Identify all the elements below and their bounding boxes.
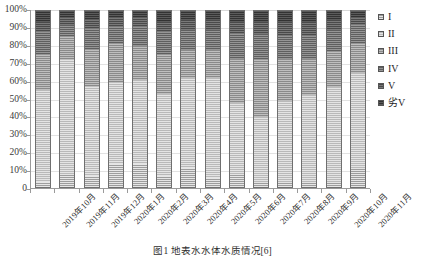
legend-item[interactable]: II xyxy=(378,29,425,39)
bar-column[interactable] xyxy=(104,10,128,188)
bar-column[interactable] xyxy=(201,10,225,188)
bar-segment-III[interactable] xyxy=(351,44,365,72)
bar-segment-IV[interactable] xyxy=(157,32,171,55)
bar-segment-劣V[interactable] xyxy=(85,11,99,20)
bar-segment-I[interactable] xyxy=(327,183,341,187)
bar-segment-V[interactable] xyxy=(327,20,341,31)
bar-segment-V[interactable] xyxy=(278,22,292,36)
bar-segment-IV[interactable] xyxy=(327,30,341,51)
bar-segment-III[interactable] xyxy=(157,55,171,94)
bar-segment-V[interactable] xyxy=(157,22,171,33)
bar-segment-III[interactable] xyxy=(181,50,195,78)
bar-segment-I[interactable] xyxy=(85,176,99,187)
bar-segment-II[interactable] xyxy=(60,60,74,174)
bar-segment-IV[interactable] xyxy=(206,30,220,49)
bar-segment-III[interactable] xyxy=(85,50,99,87)
bar-segment-II[interactable] xyxy=(133,80,147,164)
bar-column[interactable] xyxy=(128,10,152,188)
bar-segment-I[interactable] xyxy=(133,164,147,187)
bar-segment-II[interactable] xyxy=(181,78,195,168)
bar-segment-II[interactable] xyxy=(302,95,316,183)
bar-segment-劣V[interactable] xyxy=(254,11,268,22)
bar-segment-IV[interactable] xyxy=(133,27,147,46)
legend-item[interactable]: V xyxy=(378,81,425,91)
bar-segment-I[interactable] xyxy=(181,168,195,187)
bar-stack[interactable] xyxy=(205,10,221,188)
legend-item[interactable]: III xyxy=(378,46,425,56)
bar-segment-III[interactable] xyxy=(302,59,316,96)
bar-segment-V[interactable] xyxy=(302,22,316,36)
bar-segment-IV[interactable] xyxy=(302,36,316,59)
bar-segment-劣V[interactable] xyxy=(327,11,341,20)
bar-segment-IV[interactable] xyxy=(254,34,268,60)
bar-stack[interactable] xyxy=(180,10,196,188)
bar-segment-劣V[interactable] xyxy=(302,11,316,22)
bar-segment-IV[interactable] xyxy=(181,30,195,49)
bar-segment-IV[interactable] xyxy=(60,25,74,37)
bar-segment-劣V[interactable] xyxy=(36,11,50,22)
bar-column[interactable] xyxy=(297,10,321,188)
bar-segment-II[interactable] xyxy=(206,78,220,178)
bar-segment-V[interactable] xyxy=(36,22,50,33)
bar-segment-IV[interactable] xyxy=(85,29,99,50)
bar-segment-IV[interactable] xyxy=(351,25,365,44)
bar-segment-III[interactable] xyxy=(206,50,220,78)
bar-column[interactable] xyxy=(55,10,79,188)
bar-segment-III[interactable] xyxy=(254,60,268,116)
bar-segment-III[interactable] xyxy=(133,46,147,79)
bar-segment-劣V[interactable] xyxy=(278,11,292,22)
bar-segment-III[interactable] xyxy=(327,52,341,87)
legend-item[interactable]: I xyxy=(378,12,425,22)
bar-segment-IV[interactable] xyxy=(36,32,50,55)
bar-segment-III[interactable] xyxy=(109,44,123,83)
bar-segment-V[interactable] xyxy=(206,20,220,31)
bar-segment-V[interactable] xyxy=(181,20,195,31)
bar-segment-II[interactable] xyxy=(327,87,341,184)
bar-stack[interactable] xyxy=(108,10,124,188)
bar-segment-V[interactable] xyxy=(351,18,365,25)
bar-segment-IV[interactable] xyxy=(109,27,123,45)
bar-stack[interactable] xyxy=(132,10,148,188)
bar-segment-III[interactable] xyxy=(278,59,292,101)
bar-stack[interactable] xyxy=(350,10,366,188)
bar-segment-II[interactable] xyxy=(36,90,50,182)
bar-column[interactable] xyxy=(176,10,200,188)
bar-segment-II[interactable] xyxy=(85,87,99,177)
bar-segment-III[interactable] xyxy=(36,55,50,90)
bar-segment-II[interactable] xyxy=(157,94,171,177)
bar-segment-劣V[interactable] xyxy=(157,11,171,22)
bar-segment-V[interactable] xyxy=(254,22,268,34)
bar-segment-V[interactable] xyxy=(133,18,147,27)
bar-column[interactable] xyxy=(152,10,176,188)
bar-segment-I[interactable] xyxy=(109,164,123,187)
bar-segment-I[interactable] xyxy=(36,182,50,187)
bar-segment-劣V[interactable] xyxy=(351,11,365,18)
bar-column[interactable] xyxy=(225,10,249,188)
bar-stack[interactable] xyxy=(35,10,51,188)
bar-stack[interactable] xyxy=(229,10,245,188)
bar-column[interactable] xyxy=(31,10,55,188)
bar-segment-劣V[interactable] xyxy=(109,11,123,18)
bar-segment-劣V[interactable] xyxy=(206,11,220,20)
bar-segment-V[interactable] xyxy=(109,18,123,27)
bar-stack[interactable] xyxy=(253,10,269,188)
bar-segment-IV[interactable] xyxy=(230,34,244,59)
bar-segment-II[interactable] xyxy=(109,83,123,164)
bar-segment-V[interactable] xyxy=(85,20,99,29)
bar-stack[interactable] xyxy=(84,10,100,188)
bar-stack[interactable] xyxy=(301,10,317,188)
bar-segment-II[interactable] xyxy=(254,117,268,184)
bar-column[interactable] xyxy=(346,10,370,188)
bar-segment-劣V[interactable] xyxy=(230,11,244,22)
bar-segment-劣V[interactable] xyxy=(133,11,147,18)
bar-column[interactable] xyxy=(273,10,297,188)
bar-segment-I[interactable] xyxy=(157,176,171,187)
bar-segment-I[interactable] xyxy=(206,178,220,187)
bar-segment-I[interactable] xyxy=(351,169,365,187)
bar-column[interactable] xyxy=(322,10,346,188)
bar-column[interactable] xyxy=(80,10,104,188)
bar-segment-II[interactable] xyxy=(351,73,365,170)
bar-segment-V[interactable] xyxy=(60,18,74,25)
bar-segment-V[interactable] xyxy=(230,22,244,34)
bar-segment-I[interactable] xyxy=(302,183,316,187)
